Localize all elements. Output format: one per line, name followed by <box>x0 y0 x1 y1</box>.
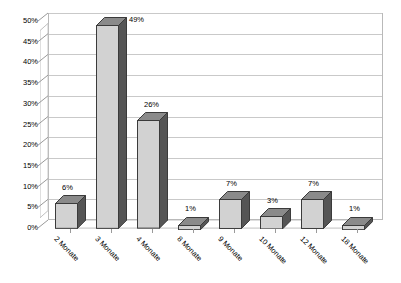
x-axis-tick-mark <box>275 229 276 233</box>
x-axis-tick-mark <box>193 229 194 233</box>
x-axis-tick-label: 8 Monate <box>175 235 203 263</box>
x-axis-tick-label: 12 Monate <box>298 235 329 266</box>
x-axis-tick-mark <box>234 229 235 233</box>
x-axis-tick-label: 4 Monate <box>134 235 162 263</box>
x-axis: 2 Monate3 Monate4 Monate8 Monate9 Monate… <box>0 0 401 283</box>
x-axis-tick-mark <box>316 229 317 233</box>
x-axis-tick-label: 3 Monate <box>93 235 121 263</box>
x-axis-tick-label: 2 Monate <box>52 235 80 263</box>
x-axis-tick-mark <box>152 229 153 233</box>
x-axis-tick-mark <box>111 229 112 233</box>
x-axis-tick-label: 18 Monate <box>339 235 370 266</box>
x-axis-tick-label: 10 Monate <box>257 235 288 266</box>
chart-container: 0%5%10%15%20%25%30%35%40%45%50% 6%49%26%… <box>0 0 401 283</box>
x-axis-tick-mark <box>70 229 71 233</box>
x-axis-tick-label: 9 Monate <box>216 235 244 263</box>
x-axis-tick-mark <box>357 229 358 233</box>
